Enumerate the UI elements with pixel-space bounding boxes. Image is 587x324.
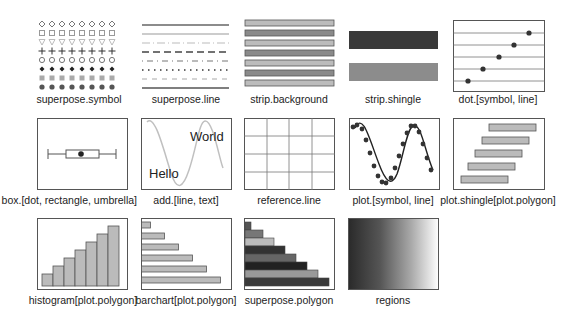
box-whisker-icon xyxy=(37,118,128,190)
panel-strip-background xyxy=(244,17,335,89)
dot-plot-icon xyxy=(453,20,544,92)
scatter-curve-icon xyxy=(349,118,440,190)
panel-superpose-polygon xyxy=(244,218,335,290)
gradient-regions-icon xyxy=(348,218,439,290)
panel-superpose-symbol xyxy=(33,17,124,89)
panel-plot-symbol-line xyxy=(349,118,440,190)
line-styles-icon xyxy=(140,17,231,89)
panel-reference-line xyxy=(244,118,335,190)
superpose-polygon-icon xyxy=(244,218,335,290)
panel-label: regions xyxy=(328,294,458,306)
grid-icon xyxy=(244,118,335,190)
panel-label: box.[dot, rectangle, umbrella] xyxy=(0,194,137,206)
panel-label: plot.shingle[plot.polygon] xyxy=(433,194,563,206)
panel-plot-shingle xyxy=(453,118,544,190)
barchart-icon xyxy=(141,218,232,290)
annotation-text-hello: Hello xyxy=(149,166,179,181)
strip-shingle-icon xyxy=(349,17,440,89)
panel-dot-plot xyxy=(453,20,544,92)
panel-superpose-line xyxy=(140,17,231,89)
panel-label: dot.[symbol, line] xyxy=(433,93,563,105)
panel-barchart xyxy=(141,218,232,290)
histogram-icon xyxy=(37,218,128,290)
panel-box-whisker xyxy=(37,118,128,190)
panel-add-line-text: World Hello xyxy=(141,118,232,190)
panel-histogram xyxy=(37,218,128,290)
shingle-icon xyxy=(453,118,544,190)
panel-regions xyxy=(348,218,439,290)
strip-background-icon xyxy=(244,17,335,89)
annotation-text-world: World xyxy=(190,129,224,144)
symbol-grid-icon xyxy=(33,17,124,89)
panel-strip-shingle xyxy=(349,17,440,89)
